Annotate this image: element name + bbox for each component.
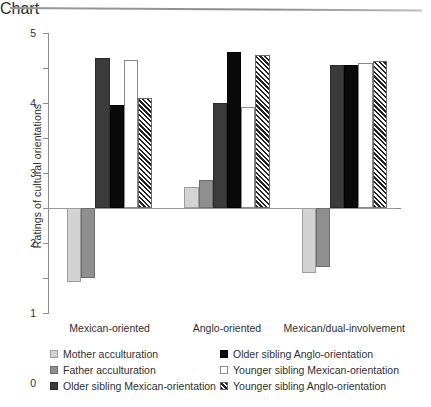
light-gray-swatch	[50, 350, 58, 358]
y-tick-mark: -3	[43, 313, 49, 314]
legend-item-label: Mother acculturation	[63, 348, 158, 360]
medium-gray-swatch	[50, 366, 58, 374]
y-tick-mark: 2	[43, 138, 49, 139]
right-axis-tick-bottom	[395, 208, 401, 209]
bar	[302, 208, 316, 273]
y-tick-mark: -2	[43, 278, 49, 279]
bar	[241, 107, 255, 208]
white-outline-swatch	[220, 366, 228, 374]
legend-item: Younger sibling Mexican-orientation	[220, 362, 399, 377]
bar	[124, 60, 138, 208]
legend-item-label: Younger sibling Anglo-orientation	[233, 380, 386, 392]
legend-item: Father acculturation	[50, 362, 216, 377]
legend-item: Younger sibling Anglo-orientation	[220, 378, 399, 393]
y-tick-label: 3	[30, 167, 36, 179]
bar	[95, 58, 109, 209]
y-tick-label: 4	[30, 97, 36, 109]
bar	[110, 105, 124, 208]
y-tick-label: 2	[30, 237, 36, 249]
legend-item: Older sibling Mexican-orientation	[50, 378, 216, 393]
bar	[81, 208, 95, 278]
dark-gray-swatch	[50, 382, 58, 390]
bar-chart-figure: Ratings of cultural orientations 543210-…	[0, 0, 431, 407]
x-axis-category-label: Mexican-oriented	[69, 322, 150, 334]
legend-item-label: Older sibling Anglo-orientation	[233, 348, 373, 360]
x-axis-category-label: Anglo-oriented	[193, 322, 261, 334]
legend-item-label: Younger sibling Mexican-orientation	[233, 364, 399, 376]
legend-item-label: Older sibling Mexican-orientation	[63, 380, 216, 392]
hatched-swatch	[220, 382, 228, 390]
legend-item: Mother acculturation	[50, 346, 216, 361]
legend-column-left: Mother acculturationFather acculturation…	[50, 346, 216, 394]
bar	[373, 61, 387, 208]
bar	[358, 63, 372, 208]
bar	[67, 208, 81, 282]
bar	[255, 55, 269, 208]
bar	[199, 180, 213, 208]
y-tick-mark: -1	[43, 243, 49, 244]
zero-baseline	[48, 208, 400, 209]
plot-area: 543210-1-2-3	[48, 33, 400, 313]
bar	[138, 98, 152, 208]
bar	[227, 52, 241, 208]
bar	[184, 187, 198, 208]
y-tick-mark: 5	[43, 33, 49, 34]
x-axis-category-label: Mexican/dual-involvement	[284, 322, 405, 334]
bar	[316, 208, 330, 267]
bar	[330, 65, 344, 209]
y-tick-label: 5	[30, 27, 36, 39]
chart-legend: Mother acculturationFather acculturation…	[0, 346, 431, 406]
bar	[213, 103, 227, 208]
bar	[344, 65, 358, 209]
y-tick-mark: 4	[43, 68, 49, 69]
y-tick-label: 1	[30, 307, 36, 319]
black-swatch	[220, 350, 228, 358]
y-tick-mark: 1	[43, 173, 49, 174]
legend-item: Older sibling Anglo-orientation	[220, 346, 399, 361]
legend-column-right: Older sibling Anglo-orientationYounger s…	[220, 346, 399, 394]
legend-item-label: Father acculturation	[63, 364, 156, 376]
y-tick-mark: 3	[43, 103, 49, 104]
